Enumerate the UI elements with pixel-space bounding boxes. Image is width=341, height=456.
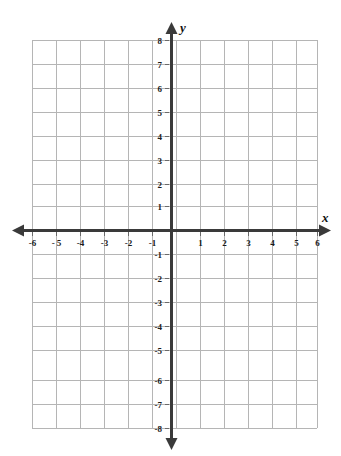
- x-axis-ticks: [33, 232, 318, 236]
- axis-arrow-up-icon: [166, 22, 178, 34]
- y-tick-label: 2: [146, 180, 162, 190]
- y-tick-label: -1: [144, 250, 162, 260]
- coordinate-plane: y x -6 - 5 -4 -3 -2 -1 1 2 3 4 5 6 8 7 6…: [0, 0, 341, 456]
- x-tick-label: -3: [94, 238, 115, 248]
- x-tick-label: - 5: [46, 238, 67, 248]
- x-tick-label: 2: [214, 238, 235, 248]
- x-tick-label: -6: [22, 238, 43, 248]
- y-tick-label: 3: [146, 156, 162, 166]
- x-tick-label: 4: [262, 238, 283, 248]
- y-tick-label: -3: [144, 298, 162, 308]
- x-tick-label: 3: [238, 238, 259, 248]
- axis-arrow-left-icon: [12, 225, 24, 237]
- y-tick-label: 1: [146, 202, 162, 212]
- y-tick-label: 5: [146, 108, 162, 118]
- y-tick-label: -2: [144, 274, 162, 284]
- y-tick-label: 7: [146, 60, 162, 70]
- graph-canvas: [0, 0, 341, 456]
- y-tick-label: -5: [144, 346, 162, 356]
- grid-lines-horizontal: [32, 41, 317, 429]
- y-axis-ticks: [165, 41, 169, 429]
- x-tick-label: 6: [307, 238, 328, 248]
- y-tick-label: -4: [142, 322, 162, 332]
- x-tick-label: -2: [118, 238, 139, 248]
- y-tick-label: 6: [146, 84, 162, 94]
- y-tick-label: 4: [146, 132, 162, 142]
- x-axis-label: x: [322, 211, 329, 224]
- y-tick-label: -8: [144, 424, 162, 434]
- axis-arrow-right-icon: [319, 225, 331, 237]
- y-tick-label: -6: [144, 376, 162, 386]
- x-tick-label: 5: [286, 238, 307, 248]
- x-tick-label: 1: [190, 238, 211, 248]
- y-tick-label: -7: [144, 400, 162, 410]
- axis-arrow-down-icon: [166, 438, 178, 450]
- x-tick-label: -1: [142, 238, 163, 248]
- grid-lines-vertical: [33, 40, 318, 428]
- y-axis-label: y: [180, 21, 186, 34]
- y-tick-label: 8: [146, 36, 162, 46]
- x-tick-label: -4: [70, 238, 91, 248]
